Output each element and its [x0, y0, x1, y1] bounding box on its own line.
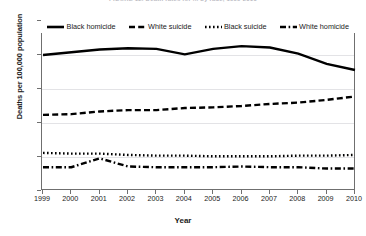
legend-label: Black suicide [224, 22, 267, 31]
legend-label: Black homicide [67, 22, 116, 31]
series-line-black-homicide [43, 46, 355, 70]
data-lines [42, 21, 356, 191]
legend-swatch-icon [47, 23, 64, 31]
legend-label: White homicide [299, 22, 349, 31]
y-tick-mark [37, 190, 41, 191]
legend-swatch-icon [129, 23, 146, 31]
y-axis-label: Deaths per 100,000 population [15, 0, 24, 142]
legend-swatch-icon [205, 23, 222, 31]
legend-item-black-suicide[interactable]: Black suicide [205, 22, 267, 31]
series-line-white-homicide [43, 158, 355, 168]
legend-item-black-homicide[interactable]: Black homicide [47, 22, 116, 31]
legend-label: White suicide [148, 22, 191, 31]
series-line-black-suicide [43, 153, 355, 156]
legend-item-white-suicide[interactable]: White suicide [129, 22, 192, 31]
legend-swatch-icon [280, 23, 297, 31]
legend-item-white-homicide[interactable]: White homicide [280, 22, 349, 31]
series-line-white-suicide [43, 96, 355, 114]
plot-area [41, 20, 355, 190]
x-axis-label: Year [0, 216, 366, 225]
figure-title: FIGURE 12. Death rates for ... by race, … [0, 0, 366, 2]
chart-legend: Black homicideWhite suicideBlack suicide… [41, 20, 355, 33]
figure-container: FIGURE 12. Death rates for ... by race, … [0, 0, 366, 236]
x-tick-label: 2010 [337, 194, 366, 203]
